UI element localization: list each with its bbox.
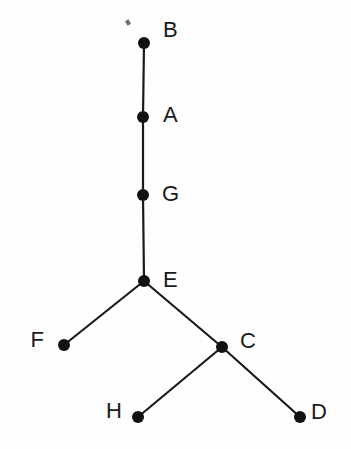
node-label-e: E [163, 267, 178, 292]
node-label-c: C [240, 328, 256, 353]
node-label-f: F [31, 327, 44, 352]
node-label-h: H [106, 398, 122, 423]
scan-speck-artifact [125, 19, 131, 25]
graph-node-e[interactable] [138, 275, 150, 287]
tree-diagram-figure: BAGEFCHD [0, 0, 351, 449]
graph-node-a[interactable] [137, 111, 149, 123]
graph-node-c[interactable] [216, 341, 228, 353]
graph-edge-C-H [138, 347, 222, 417]
graph-edge-B-A [143, 43, 144, 117]
node-label-d: D [311, 399, 327, 424]
graph-edge-E-F [64, 281, 144, 345]
graph-node-d[interactable] [294, 411, 306, 423]
graph-node-h[interactable] [132, 411, 144, 423]
node-label-b: B [163, 17, 178, 42]
graph-edge-C-D [222, 347, 300, 417]
edge-layer [64, 43, 300, 417]
node-label-g: G [162, 181, 179, 206]
node-layer [58, 37, 306, 423]
label-layer: BAGEFCHD [31, 17, 327, 424]
graph-edge-G-E [143, 195, 144, 281]
artifact-layer [125, 19, 131, 25]
node-label-a: A [163, 102, 178, 127]
graph-canvas: BAGEFCHD [0, 0, 351, 449]
graph-node-f[interactable] [58, 339, 70, 351]
graph-node-g[interactable] [137, 189, 149, 201]
graph-node-b[interactable] [138, 37, 150, 49]
graph-edge-E-C [144, 281, 222, 347]
